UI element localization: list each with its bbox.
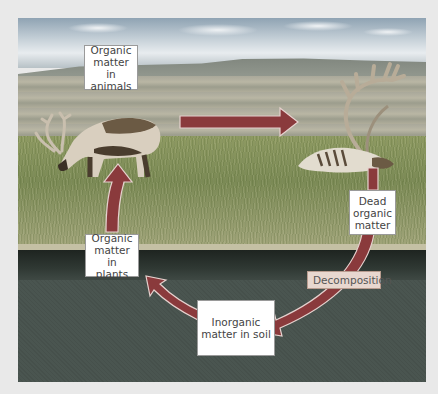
arrow-soil-to-plants [146, 276, 202, 320]
node-label: Dead organic matter [353, 195, 392, 231]
node-dead-organic-matter: Dead organic matter [349, 190, 396, 235]
node-organic-matter-animals: Organic matter in animals [84, 45, 138, 90]
node-organic-matter-plants: Organic matter in plants [85, 234, 139, 277]
node-label: Organic matter in animals [87, 44, 135, 92]
node-inorganic-matter-soil: Inorganic matter in soil [197, 300, 275, 356]
decomposition-label: Decomposition [307, 271, 381, 289]
arrow-plants-to-animals [104, 164, 132, 232]
node-label: Inorganic matter in soil [201, 316, 271, 340]
arrow-animals-to-dead [180, 108, 298, 136]
diagram-frame: Organic matter in animals Dead organic m… [18, 18, 426, 382]
node-label: Organic matter in plants [88, 232, 136, 280]
